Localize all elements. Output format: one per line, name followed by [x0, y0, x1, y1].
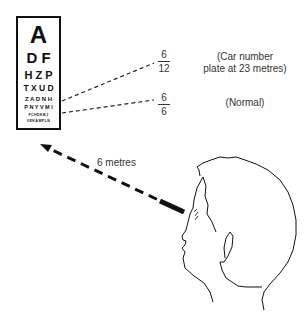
eye-chart-row-2: D F	[18, 50, 59, 66]
connector-6-6	[62, 100, 154, 113]
acuity-fraction-6-6: 6 6	[156, 92, 172, 117]
acuity-note-6-6: (Normal)	[190, 97, 300, 109]
acuity-note-6-12: (Car number plate at 23 metres)	[190, 51, 300, 75]
eye-chart: A D F H Z P T X U D Z A D N H P N Y V M …	[16, 16, 61, 130]
fraction-bar	[158, 104, 170, 105]
connector-6-12	[62, 63, 154, 101]
sightline-arrow-icon	[40, 144, 184, 212]
eye-chart-row-4: T X U D	[18, 83, 59, 93]
eye-chart-row-1: A	[18, 22, 59, 48]
eye-chart-row-7: FCHDKBJ	[18, 113, 59, 118]
distance-label: 6 metres	[97, 157, 136, 168]
acuity-fraction-6-12: 6 12	[156, 49, 172, 74]
head-profile-icon	[182, 157, 296, 310]
eye-chart-row-5: Z A D N H	[18, 95, 59, 103]
eye-chart-row-6: P N Y V M I	[18, 104, 59, 111]
eye-chart-row-8: VEKAMPLN	[18, 119, 59, 124]
eye-chart-row-3: H Z P	[18, 69, 59, 81]
fraction-bar	[158, 61, 170, 62]
